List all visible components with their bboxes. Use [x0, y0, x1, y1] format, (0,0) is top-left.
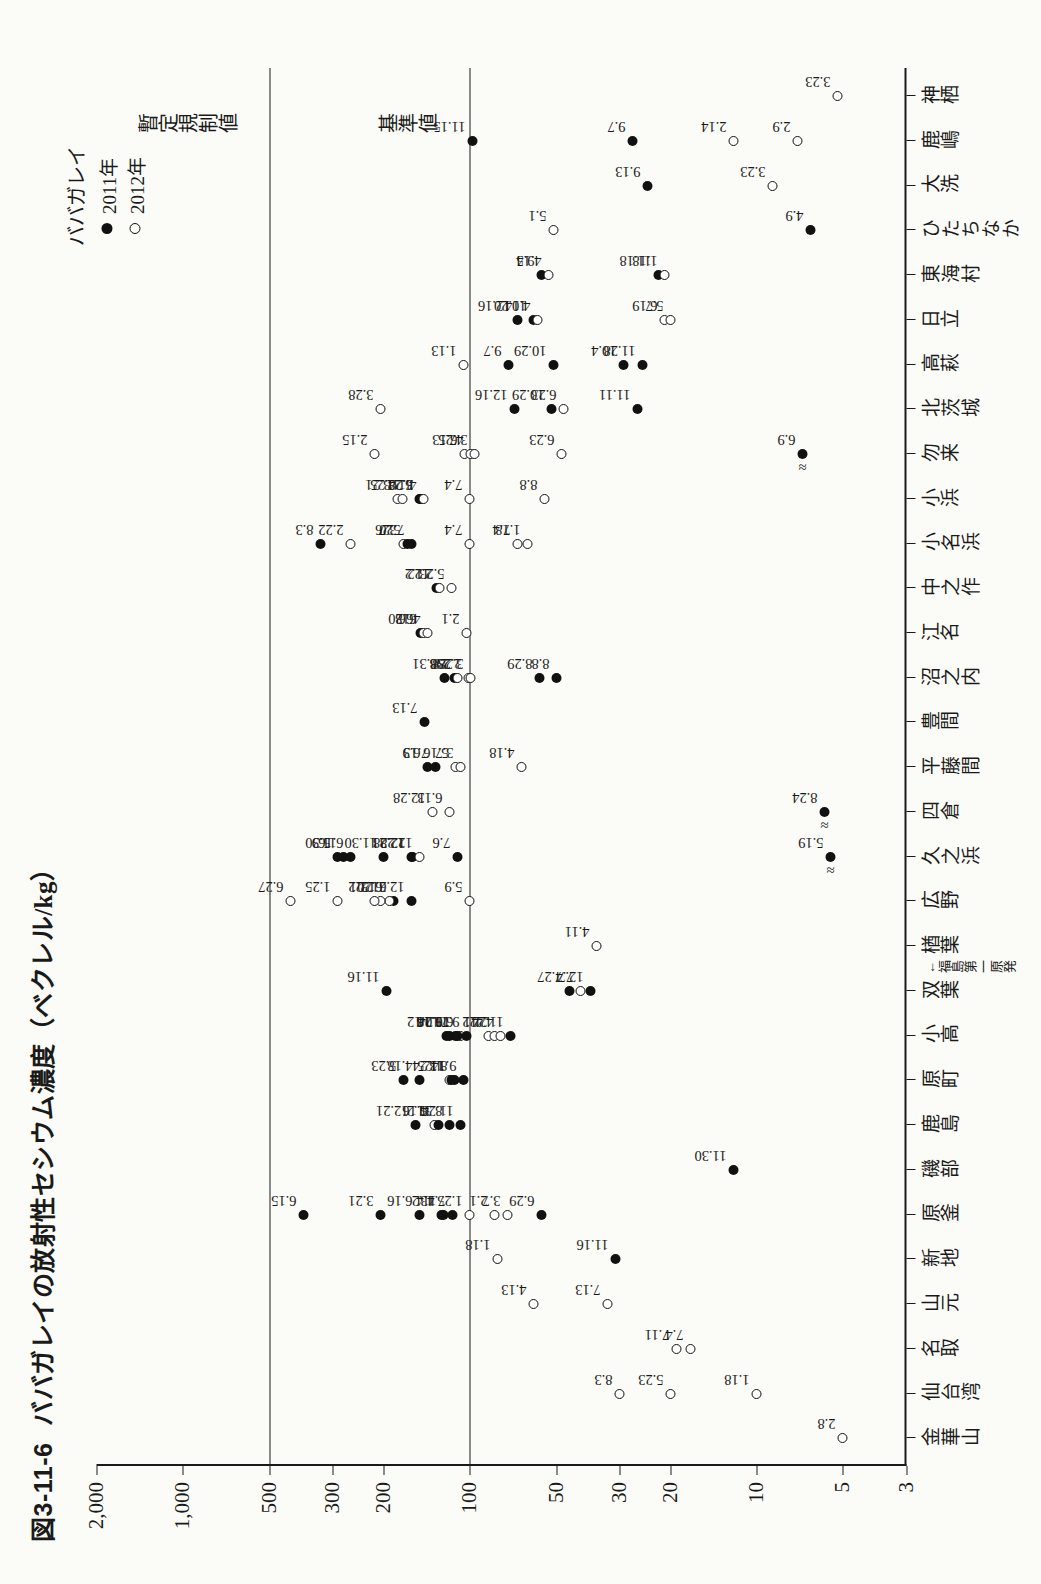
y-axis-tick: [383, 1466, 384, 1475]
data-point-label: 10.29: [513, 342, 546, 359]
x-axis-category-label: 鹿島: [920, 1115, 958, 1134]
data-point-label: 7.13: [391, 700, 416, 717]
y-axis-tick: [670, 1466, 671, 1475]
y-axis-tick-label: 10: [744, 1482, 769, 1503]
data-point: [397, 494, 407, 504]
x-axis-category-label: 久之浜: [920, 847, 980, 866]
data-point-label: 6.29: [509, 1192, 534, 1209]
data-point: [512, 315, 522, 325]
x-axis-tick: [906, 364, 915, 365]
data-point-label: 6.9: [777, 431, 795, 448]
data-point: [659, 270, 669, 280]
data-point-label: 5.9: [444, 878, 462, 895]
y-axis-tick-label: 500: [256, 1482, 281, 1514]
data-point: [503, 360, 513, 370]
x-axis-tick: [906, 274, 915, 275]
data-point-label: 3.23: [805, 73, 830, 90]
data-point: [556, 449, 566, 459]
data-point: [671, 1344, 681, 1354]
data-point-label: 1.18: [465, 1236, 490, 1253]
data-point: [825, 852, 835, 862]
x-axis-tick: [906, 453, 915, 454]
data-point: [444, 807, 454, 817]
figure-heading: 図3-11-6 ババガレイの放射性セシウム濃度（ベクレル/kg）: [22, 856, 58, 1543]
x-axis-category-label: 沼之内: [920, 668, 980, 687]
x-axis-category-label: 双葉: [920, 981, 958, 1000]
data-point-label: 9.14: [431, 1057, 456, 1074]
y-axis-tick: [96, 1466, 97, 1475]
legend-title: ババガレイ: [60, 146, 89, 246]
data-point: [637, 360, 647, 370]
data-point-label: 1.18: [631, 252, 656, 269]
data-point-label: 2.1: [349, 878, 367, 895]
data-point: [505, 1031, 515, 1041]
data-point: [502, 1210, 512, 1220]
data-point-label: 9.7: [483, 342, 501, 359]
data-point: [610, 1254, 620, 1264]
data-point: [452, 1031, 462, 1041]
x-axis-category-label: 原釜: [920, 1205, 958, 1224]
x-axis-category-label: 四倉: [920, 802, 958, 821]
data-point: [558, 404, 568, 414]
data-point: [469, 449, 479, 459]
data-point: [422, 628, 432, 638]
data-point: [464, 539, 474, 549]
data-point: [792, 136, 802, 146]
axis-break-icon: ≈: [798, 459, 806, 476]
data-point: [455, 762, 465, 772]
data-point-label: 7.4: [444, 476, 462, 493]
data-point-label: 7.11: [644, 1326, 669, 1343]
data-point-label: 7.13: [575, 1281, 600, 1298]
data-point-label: 3.21: [347, 1192, 372, 1209]
data-point-label: 2.9: [772, 118, 790, 135]
x-axis-category-label: 小浜: [920, 489, 958, 508]
data-point: [434, 583, 444, 593]
data-point: [585, 986, 595, 996]
data-point: [332, 896, 342, 906]
data-point-label: 7.4: [444, 521, 462, 538]
y-axis-tick-label: 50: [543, 1482, 568, 1503]
data-point-label: 8.24: [792, 789, 817, 806]
data-point-label: 2.14: [701, 118, 726, 135]
data-point: [614, 1389, 624, 1399]
data-point: [509, 404, 519, 414]
data-point: [414, 852, 424, 862]
data-point: [546, 404, 556, 414]
data-point: [767, 181, 777, 191]
data-point: [516, 762, 526, 772]
figure-title: ババガレイの放射性セシウム濃度（ベクレル/kg）: [29, 856, 56, 1426]
x-axis-category-label: 山元: [920, 1294, 958, 1313]
data-point: [728, 1165, 738, 1175]
data-point-label: 4.11: [391, 476, 416, 493]
data-point: [512, 539, 522, 549]
y-axis-tick-label: 100: [457, 1482, 482, 1514]
data-point: [414, 1210, 424, 1220]
data-point-label: 3.23: [740, 163, 765, 180]
x-axis-tick: [906, 632, 915, 633]
data-point-label: 4.18: [386, 1057, 411, 1074]
data-point: [467, 136, 477, 146]
data-point-label: 4.18: [489, 744, 514, 761]
data-point: [728, 136, 738, 146]
y-axis-tick-label: 1,000: [170, 1482, 195, 1529]
x-axis-tick: [906, 1169, 915, 1170]
data-point-label: 5.1: [528, 207, 546, 224]
x-axis-tick: [906, 945, 915, 946]
data-point: [455, 1120, 465, 1130]
data-point: [543, 270, 553, 280]
data-point-label: 11.24: [471, 1013, 503, 1030]
data-point: [419, 718, 429, 728]
data-point-label: 3.28: [347, 386, 372, 403]
x-axis-tick: [906, 95, 915, 96]
data-point-label: 2.1: [440, 610, 458, 627]
x-axis-category-label: 東海村: [920, 265, 980, 284]
x-axis-tick: [906, 587, 915, 588]
data-point: [439, 673, 449, 683]
data-point: [452, 852, 462, 862]
y-axis-tick: [842, 1466, 843, 1475]
x-axis-tick: [906, 319, 915, 320]
data-point-label: 12.21: [371, 878, 404, 895]
data-point-label: 9.7: [607, 118, 625, 135]
data-point: [492, 1254, 502, 1264]
data-point: [642, 181, 652, 191]
